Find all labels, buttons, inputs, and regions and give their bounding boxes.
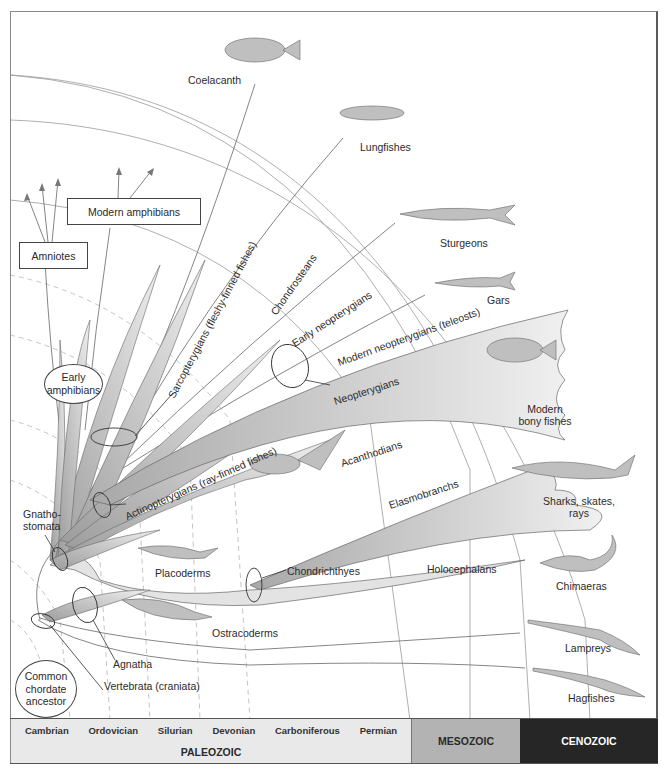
- clade-label-vertebrata: Vertebrata (craniata): [104, 680, 200, 692]
- amniotes-box: Amniotes: [19, 242, 88, 269]
- modern-bony-fishes-fan: [90, 310, 568, 505]
- era-cenozoic: CENOZOIC: [520, 719, 658, 763]
- sturgeon-illustration-icon: [400, 205, 515, 225]
- period-silurian: Silurian: [158, 725, 193, 736]
- era-paleozoic: Cambrian Ordovician Silurian Devonian Ca…: [10, 719, 411, 763]
- period-permian: Permian: [360, 725, 398, 736]
- taxon-label-sturgeons: Sturgeons: [440, 237, 488, 249]
- taxon-label-sharks-skates-rays: Sharks, skates, rays: [524, 495, 634, 519]
- gar-illustration-icon: [435, 272, 515, 290]
- placoderm-illustration-icon: [138, 546, 218, 559]
- lungfish-illustration-icon: [340, 106, 404, 120]
- taxon-label-lungfishes: Lungfishes: [360, 141, 411, 153]
- period-carboniferous: Carboniferous: [275, 725, 340, 736]
- period-cambrian: Cambrian: [25, 725, 69, 736]
- clade-label-agnatha: Agnatha: [113, 658, 152, 670]
- common-chordate-ancestor-oval: Commonchordateancestor: [15, 660, 77, 718]
- clade-label-chondrichthyes: Chondrichthyes: [287, 565, 360, 577]
- modern-amphibians-box: Modern amphibians: [67, 198, 201, 225]
- clade-label-placoderms: Placoderms: [155, 567, 210, 579]
- taxon-label-lampreys: Lampreys: [565, 642, 611, 654]
- coelacanth-illustration-icon: [225, 38, 300, 62]
- era-label-paleozoic: PALEOZOIC: [11, 746, 411, 758]
- taxon-label-modern-bony-fishes: Modern bony fishes: [500, 403, 590, 427]
- paleozoic-periods: Cambrian Ordovician Silurian Devonian Ca…: [11, 725, 411, 736]
- period-devonian: Devonian: [212, 725, 255, 736]
- era-label-cenozoic: CENOZOIC: [561, 735, 616, 747]
- period-ordovician: Ordovician: [88, 725, 138, 736]
- lamprey-branch: [40, 618, 520, 650]
- taxon-label-coelacanth: Coelacanth: [188, 74, 241, 86]
- early-amphibians-oval: Earlyamphibians: [44, 364, 103, 404]
- geologic-timeline: Cambrian Ordovician Silurian Devonian Ca…: [10, 718, 658, 764]
- era-mesozoic: MESOZOIC: [411, 719, 520, 763]
- hagfish-branch: [38, 620, 525, 668]
- taxon-label-gars: Gars: [487, 294, 510, 306]
- era-label-mesozoic: MESOZOIC: [438, 735, 494, 747]
- clade-label-holocephalans: Holocephalans: [427, 563, 496, 575]
- clade-label-ostracoderms: Ostracoderms: [212, 627, 278, 639]
- taxon-label-chimaeras: Chimaeras: [556, 580, 607, 592]
- clade-label-gnathostomata: Gnatho- stomata: [23, 508, 61, 532]
- chimaera-illustration-icon: [540, 535, 616, 571]
- taxon-label-hagfishes: Hagfishes: [568, 692, 615, 704]
